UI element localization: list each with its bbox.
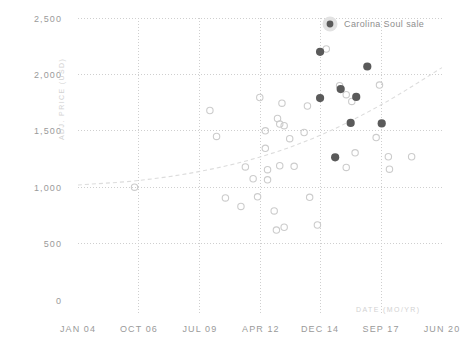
- y-axis-tick-labels: 05001,0001,5002,0002,500: [34, 14, 62, 306]
- data-point-open: [287, 135, 293, 141]
- x-axis-tick-label: DEC 14: [301, 324, 339, 334]
- data-point-open: [386, 166, 392, 172]
- data-point-open: [257, 94, 263, 100]
- data-point-open: [376, 82, 382, 88]
- x-axis-tick-label: JUL 09: [183, 324, 218, 334]
- data-point-open: [279, 100, 285, 106]
- data-point-carolina-soul: [316, 48, 324, 56]
- chart-canvas: 05001,0001,5002,0002,500 JAN 04OCT 06JUL…: [0, 0, 460, 359]
- x-axis-tick-label: JAN 04: [60, 324, 96, 334]
- data-point-open: [291, 163, 297, 169]
- gridlines-vertical: [139, 18, 381, 314]
- data-point-open: [301, 129, 307, 135]
- data-point-open: [385, 154, 391, 160]
- data-point-open: [271, 208, 277, 214]
- data-point-open: [314, 222, 320, 228]
- data-point-open: [281, 224, 287, 230]
- data-point-carolina-soul: [331, 153, 339, 161]
- data-point-open: [373, 134, 379, 140]
- x-axis-title: DATE (MO/YR): [356, 306, 421, 314]
- data-point-open: [250, 176, 256, 182]
- data-point-open: [306, 194, 312, 200]
- data-point-open: [207, 107, 213, 113]
- y-axis-tick-label: 1,000: [34, 183, 62, 193]
- data-point-open: [273, 227, 279, 233]
- data-point-open: [264, 177, 270, 183]
- y-axis-tick-label: 0: [56, 296, 62, 306]
- data-point-open: [277, 163, 283, 169]
- data-point-open: [304, 103, 310, 109]
- data-point-carolina-soul: [352, 93, 360, 101]
- data-point-open: [242, 164, 248, 170]
- data-point-open: [408, 154, 414, 160]
- x-axis-tick-label: APR 12: [242, 324, 280, 334]
- y-axis-tick-label: 2,500: [34, 14, 62, 24]
- data-point-carolina-soul: [316, 94, 324, 102]
- y-axis-tick-label: 500: [44, 239, 62, 249]
- x-axis-tick-label: OCT 06: [120, 324, 158, 334]
- legend-label: Carolina Soul sale: [344, 19, 424, 29]
- data-point-carolina-soul: [337, 85, 345, 93]
- data-point-open: [352, 150, 358, 156]
- data-point-carolina-soul: [378, 119, 386, 127]
- data-point-open: [343, 164, 349, 170]
- data-point-open: [222, 195, 228, 201]
- data-point-open: [264, 167, 270, 173]
- data-point-open: [343, 92, 349, 98]
- x-axis-tick-label: JUN 20: [424, 324, 460, 334]
- y-axis-title: ADJ. PRICE (USD): [58, 58, 66, 140]
- data-point-open: [254, 194, 260, 200]
- data-point-carolina-soul: [363, 62, 371, 70]
- gridlines-horizontal: [78, 18, 442, 244]
- x-axis-tick-labels: JAN 04OCT 06JUL 09APR 12DEC 14SEP 17JUN …: [60, 324, 460, 334]
- data-point-open: [262, 145, 268, 151]
- legend-marker-icon: [327, 21, 334, 28]
- data-point-open: [238, 203, 244, 209]
- data-point-carolina-soul: [347, 119, 355, 127]
- scatter-chart: 05001,0001,5002,0002,500 JAN 04OCT 06JUL…: [0, 0, 460, 359]
- x-axis-tick-label: SEP 17: [363, 324, 400, 334]
- legend: Carolina Soul sale: [323, 17, 425, 32]
- data-point-open: [213, 133, 219, 139]
